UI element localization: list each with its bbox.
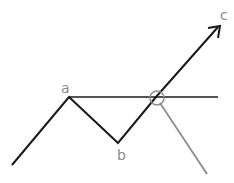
label-c: c bbox=[220, 7, 228, 23]
diagram-canvas: a b c bbox=[0, 0, 234, 183]
breakout-circle bbox=[150, 91, 164, 105]
alternative-path-line bbox=[160, 103, 207, 174]
label-b: b bbox=[117, 147, 126, 163]
label-a: a bbox=[61, 80, 70, 96]
